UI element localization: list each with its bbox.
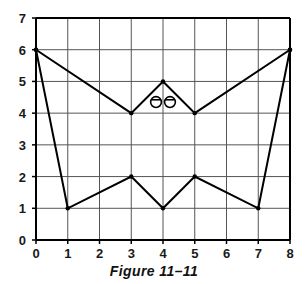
y-tick-label-0: 0 [19,233,26,248]
figure-container: 012345678 01234567 Figure 11–11 [0,0,308,284]
eye-right [165,97,176,108]
figure-caption: Figure 11–11 [110,263,198,279]
y-tick-label-5: 5 [19,74,26,89]
marker-lower-outline-1-1 [66,206,70,210]
marker-upper-outline-3-4 [129,111,133,115]
y-tick-label-3: 3 [19,138,26,153]
marker-upper-outline-4-5 [161,79,165,83]
chart-canvas: 012345678 01234567 Figure 11–11 [0,0,308,284]
marker-lower-outline-7-1 [256,206,260,210]
marker-lower-outline-8-6 [288,48,292,52]
x-tick-label-7: 7 [255,246,262,261]
y-tick-label-2: 2 [19,170,26,185]
y-tick-label-7: 7 [19,11,26,26]
marker-lower-outline-4-1 [161,206,165,210]
eye-left [151,97,162,108]
eye-right-outline [165,97,176,108]
x-tick-label-4: 4 [159,246,167,261]
x-tick-label-2: 2 [96,246,103,261]
y-tick-label-6: 6 [19,43,26,58]
y-axis-tick-labels: 01234567 [19,11,27,248]
x-tick-label-3: 3 [128,246,135,261]
x-tick-label-8: 8 [286,246,293,261]
y-tick-label-4: 4 [19,106,27,121]
marker-lower-outline-0-6 [34,48,38,52]
x-tick-label-6: 6 [223,246,230,261]
marker-upper-outline-5-4 [193,111,197,115]
y-tick-label-1: 1 [19,201,26,216]
eye-left-outline [151,97,162,108]
marker-lower-outline-3-2 [129,174,133,178]
x-tick-label-5: 5 [191,246,198,261]
x-tick-label-0: 0 [32,246,39,261]
marker-lower-outline-5-2 [193,174,197,178]
axis-tick-marks [32,18,290,244]
x-tick-label-1: 1 [64,246,71,261]
x-axis-tick-labels: 012345678 [32,246,293,261]
